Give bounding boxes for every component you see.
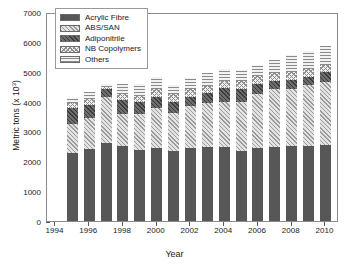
x-tick-mark [189,222,190,226]
bar-stack [134,84,145,221]
bar-segment [286,146,297,221]
legend-swatch [60,46,80,53]
bar-segment [286,72,297,80]
bar-segment [320,72,331,82]
bar-segment [117,94,128,100]
bar-stack [236,70,247,221]
bar-segment [168,94,179,102]
legend-label: Adiponitrile [85,35,125,43]
bar-segment [168,113,179,151]
bar-segment [286,55,297,71]
bar-segment [117,114,128,147]
bar-segment [219,69,230,81]
bar-segment [269,73,280,81]
bar-segment [185,97,196,107]
bar-stack [303,51,314,221]
legend-label: ABS/SAN [85,24,120,32]
x-tick-label: 2002 [181,226,199,235]
bar-stack [286,55,297,221]
bar-segment [67,108,78,124]
bar-stack [67,98,78,221]
bar-segment [269,81,280,89]
bar-segment [101,143,112,221]
x-tick-label: 1994 [46,226,64,235]
bar-segment [101,87,112,89]
x-tick-label: 2010 [316,226,334,235]
bar-segment [134,84,145,96]
bar-segment [168,102,179,113]
x-tick-mark [88,222,89,226]
bar-segment [84,92,95,99]
bar-stack [84,92,95,221]
bar-segment [117,84,128,94]
chart-figure: Metric tons (x 103) Year 010002000300040… [0,0,349,269]
bar-stack [151,77,162,221]
bar-segment [67,103,78,107]
bar-stack [168,85,179,221]
bar-segment [185,78,196,89]
legend-swatch [60,35,80,42]
bar-segment [236,70,247,81]
y-tick-label: 4000 [0,98,46,107]
bar-segment [67,153,78,221]
bar-segment [151,148,162,221]
bar-segment [252,84,263,94]
bar-stack [219,69,230,221]
bar-segment [151,89,162,97]
chart-legend: Acrylic FibreABS/SANAdiponitrileNB Copol… [55,8,148,69]
y-tick-label: 7000 [0,9,46,18]
bar-segment [84,149,95,221]
bar-segment [236,151,247,221]
bar-segment [269,89,280,147]
bar-segment [252,148,263,221]
bar-stack [252,65,263,221]
bar-segment [202,86,213,93]
y-tick-label: 1000 [0,188,46,197]
x-tick-label: 2008 [282,226,300,235]
bar-stack [185,78,196,221]
bar-segment [202,73,213,86]
y-tick-label: 5000 [0,68,46,77]
bar-segment [151,77,162,89]
bar-segment [117,100,128,113]
y-tick-mark [46,222,50,223]
bar-segment [151,108,162,148]
bar-segment [134,150,145,221]
bar-segment [320,46,331,65]
x-tick-mark [223,222,224,226]
bar-segment [286,80,297,89]
x-axis-title: Year [0,249,349,259]
bar-segment [185,148,196,221]
bar-stack [320,46,331,221]
legend-item: ABS/SAN [60,23,141,33]
bar-segment [168,151,179,221]
legend-item: Acrylic Fibre [60,13,141,23]
bar-segment [303,51,314,69]
y-tick-label: 0 [0,218,46,227]
bar-segment [219,102,230,147]
x-tick-label: 1996 [79,226,97,235]
bar-segment [219,81,230,88]
x-tick-mark [54,222,55,226]
x-tick-mark [291,222,292,226]
bar-segment [134,102,145,113]
y-tick-label: 3000 [0,128,46,137]
legend-label: NB Copolymers [85,45,141,53]
bar-stack [117,84,128,221]
bar-segment [303,146,314,221]
y-tick-label: 6000 [0,38,46,47]
bar-segment [303,85,314,146]
bar-segment [67,98,78,103]
bar-segment [84,99,95,104]
bar-segment [101,89,112,97]
bar-segment [151,97,162,108]
legend-label: Acrylic Fibre [85,14,129,22]
legend-swatch [60,56,80,63]
bar-segment [252,94,263,149]
bar-segment [84,105,95,118]
bar-segment [101,84,112,87]
bar-segment [252,76,263,84]
bar-segment [236,89,247,102]
bar-segment [202,93,213,103]
bar-segment [320,82,331,145]
